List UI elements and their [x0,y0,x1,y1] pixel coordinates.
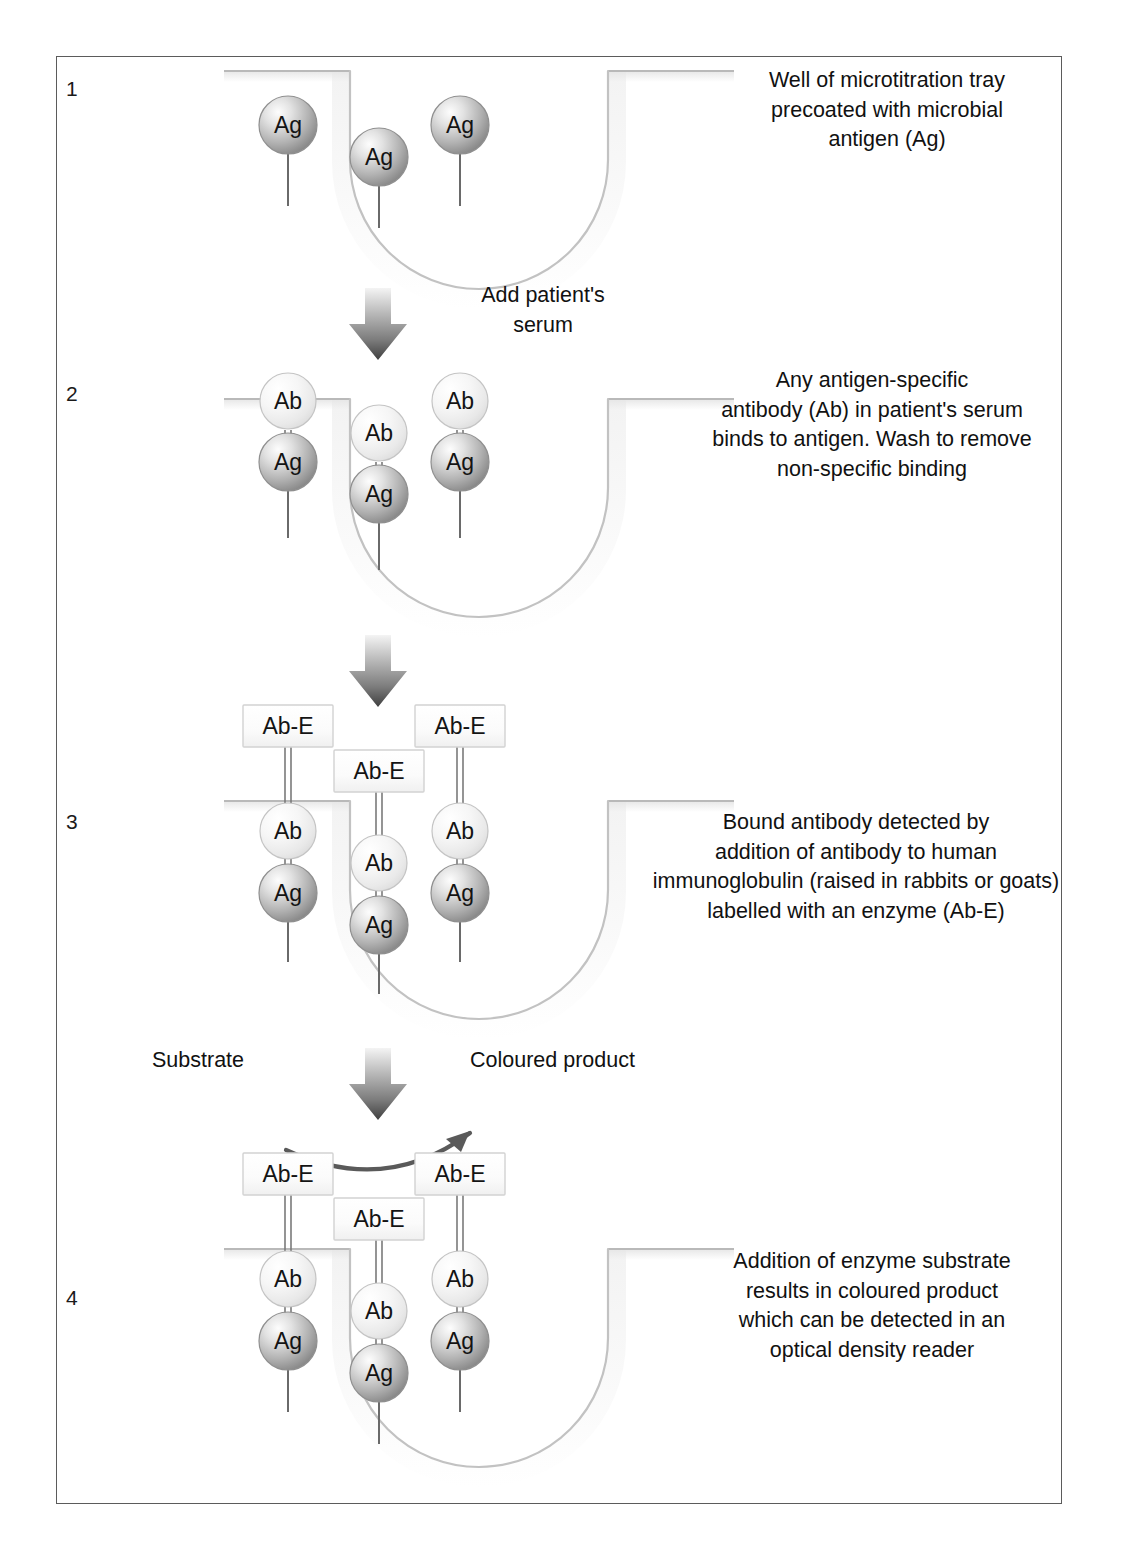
step-number-4: 4 [66,1287,78,1308]
step-number-1: 1 [66,78,78,99]
molecule-label-ab: Ab [446,388,474,414]
molecule-label-ag: Ag [446,449,474,475]
molecule-ab: Ab [351,835,407,891]
molecule-label-abe: Ab-E [353,758,404,784]
molecule-label-ab: Ab [274,388,302,414]
arrow-step-1-to-2 [349,288,407,360]
step-1-well-group: Ag Ag Ag [224,70,734,309]
molecule-ab: Ab [432,803,488,859]
molecule-ab: Ab [432,1251,488,1307]
step-4-caption: Addition of enzyme substrate results in … [662,1247,1082,1366]
molecule-label-ag: Ag [446,1328,474,1354]
step-2-well-group: Ag Ag Ag Ab Ab Ab [224,373,734,637]
step-2-caption: Any antigen-specific antibody (Ab) in pa… [662,366,1082,485]
molecule-label-ab: Ab [446,818,474,844]
molecule-ag: Ag [350,465,408,523]
molecule-label-ag: Ag [274,1328,302,1354]
molecule-abe: Ab-E [243,1153,333,1195]
molecule-ag: Ag [350,896,408,954]
molecule-label-ag: Ag [274,112,302,138]
molecule-ab: Ab [351,405,407,461]
molecule-ab: Ab [351,1283,407,1339]
molecule-label-abe: Ab-E [262,1161,313,1187]
molecule-label-ag: Ag [274,880,302,906]
arrow-step-2-to-3 [349,635,407,707]
molecule-label-abe: Ab-E [353,1206,404,1232]
diagram-page: Ag Ag Ag [0,0,1121,1568]
molecule-label-abe: Ab-E [434,1161,485,1187]
step-number-2: 2 [66,383,78,404]
molecule-ag: Ag [431,96,489,154]
coloured-product-label: Coloured product [470,1046,720,1076]
molecule-ag: Ag [259,433,317,491]
molecule-label-ab: Ab [274,818,302,844]
molecule-label-ag: Ag [365,144,393,170]
step-1-caption: Well of microtitration tray precoated wi… [692,66,1082,155]
step-4-well-group: Ag Ag Ag Ab Ab Ab [224,1153,734,1487]
molecule-label-ab: Ab [365,1298,393,1324]
molecule-ab: Ab [260,1251,316,1307]
arrow-step-3-to-4 [349,1048,407,1120]
arrow-1-2-label: Add patient's serum [438,281,648,340]
molecule-abe: Ab-E [243,705,333,747]
molecule-label-ag: Ag [365,1360,393,1386]
molecule-label-abe: Ab-E [262,713,313,739]
molecule-ab: Ab [260,373,316,429]
molecule-label-ag: Ag [446,112,474,138]
molecule-ag: Ag [431,1312,489,1370]
molecule-ag: Ag [350,128,408,186]
molecule-label-ab: Ab [365,420,393,446]
molecule-label-ab: Ab [274,1266,302,1292]
molecule-label-abe: Ab-E [434,713,485,739]
molecule-label-ab: Ab [446,1266,474,1292]
substrate-label: Substrate [152,1046,312,1076]
molecule-label-ag: Ag [365,912,393,938]
step-3-caption: Bound antibody detected by addition of a… [628,808,1084,927]
molecule-label-ag: Ag [365,481,393,507]
molecule-ab: Ab [432,373,488,429]
molecule-abe: Ab-E [415,1153,505,1195]
molecule-ag: Ag [350,1344,408,1402]
molecule-label-ag: Ag [446,880,474,906]
molecule-ag: Ag [259,96,317,154]
molecule-ag: Ag [259,864,317,922]
molecule-abe: Ab-E [334,1198,424,1240]
molecule-ag: Ag [259,1312,317,1370]
molecule-label-ab: Ab [365,850,393,876]
molecule-ab: Ab [260,803,316,859]
molecule-ag: Ag [431,864,489,922]
molecule-label-ag: Ag [274,449,302,475]
molecule-ag: Ag [431,433,489,491]
molecule-abe: Ab-E [415,705,505,747]
molecule-abe: Ab-E [334,750,424,792]
step-number-3: 3 [66,811,78,832]
